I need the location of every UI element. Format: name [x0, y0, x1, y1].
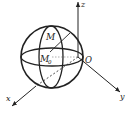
y-axis-label: y: [119, 92, 125, 101]
origin-label: O: [85, 55, 92, 65]
point-M0-subscript: 0: [48, 59, 52, 65]
z-axis-label: z: [80, 0, 86, 9]
x-axis: [12, 86, 36, 106]
point-M-label: M: [45, 32, 56, 42]
sphere-diagram: z y x O M M 0: [0, 0, 133, 118]
x-axis-label: x: [6, 94, 11, 103]
